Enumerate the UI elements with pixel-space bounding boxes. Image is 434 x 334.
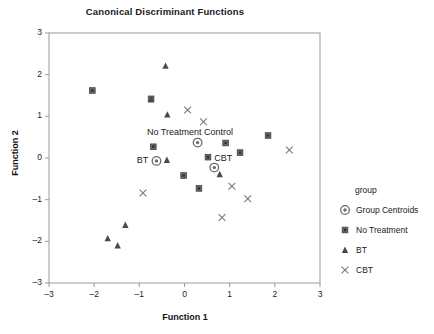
axes-layer xyxy=(45,33,320,287)
bullseye-icon xyxy=(336,203,353,217)
data-points-layer xyxy=(90,62,293,248)
legend-item-label: Group Centroids xyxy=(356,205,418,215)
figure-canvas: Canonical Discriminant Functions Functio… xyxy=(0,0,434,334)
legend-item-label: CBT xyxy=(356,265,373,275)
x-tick-label: 2 xyxy=(263,289,287,299)
legend: group Group CentroidsNo TreatmentBTCBT xyxy=(336,185,432,281)
cross-icon xyxy=(336,263,353,277)
legend-item-no-treatment[interactable]: No Treatment xyxy=(336,221,432,238)
y-tick-label: 1 xyxy=(22,110,42,120)
legend-title: group xyxy=(355,185,432,195)
page-caption xyxy=(8,324,308,331)
legend-item-label: BT xyxy=(356,245,367,255)
triangle-icon xyxy=(336,243,353,257)
y-tick-label: 3 xyxy=(22,27,42,37)
x-tick-label: –1 xyxy=(127,289,151,299)
y-tick-label: –1 xyxy=(22,194,42,204)
y-tick-label: 2 xyxy=(22,69,42,79)
y-tick-label: –2 xyxy=(22,235,42,245)
x-tick-label: 3 xyxy=(308,289,332,299)
legend-item-bt[interactable]: BT xyxy=(336,241,432,258)
legend-item-cbt[interactable]: CBT xyxy=(336,261,432,278)
y-tick-label: –3 xyxy=(22,277,42,287)
x-tick-label: 1 xyxy=(218,289,242,299)
square-icon xyxy=(336,223,353,237)
annotation-label: BT xyxy=(137,155,149,165)
legend-item-group-centroids[interactable]: Group Centroids xyxy=(336,201,432,218)
series-no-treatment xyxy=(90,88,271,192)
x-axis-title: Function 1 xyxy=(49,312,321,322)
annotation-label: CBT xyxy=(214,153,232,163)
x-tick-label: 0 xyxy=(173,289,197,299)
legend-item-label: No Treatment xyxy=(356,225,408,235)
scatter-plot-area xyxy=(0,0,434,334)
x-tick-label: –3 xyxy=(37,289,61,299)
annotation-label: No Treatment Control xyxy=(147,127,233,137)
legend-entries: Group CentroidsNo TreatmentBTCBT xyxy=(336,201,432,278)
x-tick-label: –2 xyxy=(82,289,106,299)
y-axis-title: Function 2 xyxy=(10,113,20,193)
y-tick-label: 0 xyxy=(22,152,42,162)
